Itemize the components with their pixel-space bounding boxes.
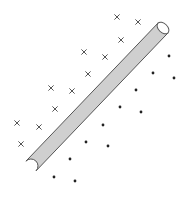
cross-icon (18, 141, 23, 146)
cross-icon (52, 106, 57, 111)
cross-icon (102, 54, 107, 59)
rod-body (26, 23, 168, 171)
cross-icon (114, 14, 119, 19)
dot-icon (85, 141, 88, 144)
separator-diagram (0, 0, 188, 197)
cross-icon (48, 85, 53, 90)
diagram-canvas (0, 0, 188, 197)
cross-icon (118, 37, 123, 42)
dot-icon (173, 77, 176, 80)
cross-icon (14, 120, 19, 125)
cross-icon (36, 124, 41, 129)
cross-icon (69, 88, 74, 93)
dot-icon (168, 55, 171, 58)
dot-icon (140, 111, 143, 114)
dot-icon (74, 180, 77, 183)
cross-icon (135, 19, 140, 24)
dot-icon (107, 145, 110, 148)
dot-icon (53, 176, 56, 179)
separator-rod (26, 20, 171, 171)
dot-icon (135, 89, 138, 92)
cross-icon (85, 71, 90, 76)
dot-icon (152, 72, 155, 75)
dot-icon (119, 106, 122, 109)
dot-icon (102, 124, 105, 127)
cross-icon (81, 49, 86, 54)
dot-icon (69, 158, 72, 161)
